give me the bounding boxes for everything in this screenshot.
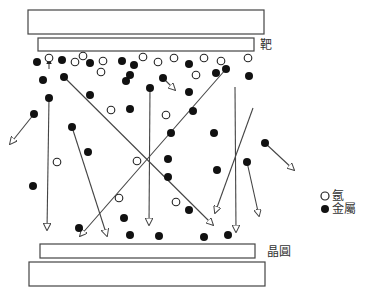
metal-atom [86, 59, 94, 67]
metal-atom [126, 231, 134, 239]
metal-atom [189, 107, 197, 115]
argon-atom [45, 54, 53, 62]
argon-legend-icon [321, 192, 329, 200]
metal-atom [126, 105, 134, 113]
argon-atom [172, 198, 180, 206]
argon-atom [99, 57, 107, 65]
wafer-label: 晶圓 [267, 246, 291, 258]
metal-atom [212, 69, 220, 77]
argon-atom [133, 157, 141, 165]
trajectory-arrow [47, 98, 49, 230]
metal-atom [68, 123, 76, 131]
metal-atom [130, 61, 138, 69]
metal-atom [120, 214, 128, 222]
metal-atom [164, 173, 172, 181]
argon-atom [53, 158, 61, 166]
metal-atom [164, 155, 172, 163]
trajectory-arrow [235, 87, 236, 232]
trajectory-arrow [247, 162, 259, 216]
metal-atom [224, 231, 232, 239]
argon-atom [170, 54, 178, 62]
metal-atom [243, 158, 251, 166]
target-label: 靶 [260, 39, 272, 51]
legend [321, 192, 329, 213]
wafer-plate [40, 244, 255, 258]
metal-atom [200, 233, 208, 241]
argon-atom [244, 54, 252, 62]
metal-atom [167, 129, 175, 137]
argon-atom [192, 71, 200, 79]
metal-atom [185, 88, 193, 96]
metal-atom [159, 74, 167, 82]
argon-atom [139, 53, 147, 61]
sputtering-diagram [0, 0, 366, 298]
metal-atom [146, 84, 154, 92]
trajectory-arrow [149, 88, 150, 225]
argon-atom [162, 111, 170, 119]
metal-atom [155, 232, 163, 240]
metal-atom [39, 76, 47, 84]
argon-atom [217, 57, 225, 65]
plates [28, 10, 265, 286]
metal-atom [122, 77, 130, 85]
metal-atom [245, 72, 253, 80]
metal-atom [118, 57, 126, 65]
metal-atom [213, 166, 221, 174]
metal-atom [86, 91, 94, 99]
trajectory-arrow [72, 127, 107, 236]
metal-atom [222, 65, 230, 73]
trajectory-arrow [10, 114, 34, 144]
legend-metal-label: 金屬 [332, 203, 356, 215]
argon-atom [79, 52, 87, 60]
argon-atom [115, 194, 123, 202]
argon-atom [71, 58, 79, 66]
trajectory-arrow [265, 143, 294, 170]
bottom-outer-plate [29, 262, 265, 286]
metal-atom [210, 129, 218, 137]
metal-atom [60, 73, 68, 81]
trajectory-arrow [80, 69, 226, 236]
metal-atom [58, 56, 66, 64]
metal-atom [75, 224, 83, 232]
metal-atom [185, 60, 193, 68]
argon-atom [97, 68, 105, 76]
metal-atom [33, 58, 41, 66]
metal-atom [30, 110, 38, 118]
top-outer-plate [28, 10, 264, 34]
legend-argon-label: 氬 [332, 190, 344, 202]
argon-atom [154, 58, 162, 66]
metal-atom [84, 148, 92, 156]
metal-atom [45, 94, 53, 102]
metal-atom [185, 206, 193, 214]
metal-atom [261, 139, 269, 147]
target-plate [38, 38, 254, 51]
argon-atom [200, 54, 208, 62]
metal-atom [29, 182, 37, 190]
metal-legend-icon [321, 205, 329, 213]
argon-atom [107, 106, 115, 114]
